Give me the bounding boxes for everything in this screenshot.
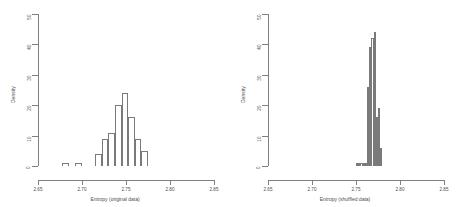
- histogram-bar: [115, 105, 122, 166]
- histogram-figure: 01020304050 2.652.702.752.802.85 Density…: [0, 0, 460, 207]
- y-tick: [262, 44, 268, 45]
- x-tick: [82, 180, 83, 185]
- y-tick: [32, 14, 38, 15]
- histogram-bar: [128, 117, 135, 166]
- histogram-bar: [102, 139, 109, 166]
- histogram-bars-shuffled: [268, 14, 444, 166]
- x-tick: [38, 180, 39, 185]
- x-tick-label: 2.85: [210, 187, 219, 193]
- histogram-bar: [75, 163, 82, 166]
- panel-original-data: 01020304050 2.652.702.752.802.85 Density…: [0, 0, 230, 207]
- y-tick: [32, 136, 38, 137]
- y-tick-label: 10: [257, 136, 262, 141]
- x-tick: [126, 180, 127, 185]
- histogram-bar: [141, 151, 148, 166]
- y-tick-label: 0: [27, 167, 32, 170]
- x-tick-label: 2.85: [440, 187, 449, 193]
- y-axis-label: Density: [10, 86, 16, 103]
- y-tick-label: 40: [27, 45, 32, 50]
- y-tick-label: 30: [257, 75, 262, 80]
- x-tick-label: 2.80: [166, 187, 175, 193]
- y-tick: [262, 136, 268, 137]
- x-tick: [214, 180, 215, 185]
- y-tick: [32, 105, 38, 106]
- y-tick-label: 30: [27, 75, 32, 80]
- y-tick-label: 40: [257, 45, 262, 50]
- y-tick: [32, 44, 38, 45]
- x-tick-label: 2.75: [122, 187, 131, 193]
- histogram-bars-original: [38, 14, 214, 166]
- y-tick-label: 10: [27, 136, 32, 141]
- y-tick: [32, 75, 38, 76]
- y-tick: [262, 75, 268, 76]
- histogram-bar: [108, 133, 115, 166]
- y-axis-label: Density: [240, 86, 246, 103]
- histogram-bar: [135, 139, 142, 166]
- y-tick: [262, 105, 268, 106]
- panel-shuffled-data: 01020304050 2.652.702.752.802.85 Density…: [230, 0, 460, 207]
- x-axis-label: Entropy (shuffled data): [230, 196, 460, 202]
- x-tick: [312, 180, 313, 185]
- x-tick-label: 2.80: [396, 187, 405, 193]
- histogram-bar: [62, 163, 69, 166]
- x-tick-label: 2.65: [264, 187, 273, 193]
- x-tick-label: 2.70: [308, 187, 317, 193]
- histogram-bar: [122, 93, 129, 166]
- y-tick: [262, 166, 268, 167]
- y-tick-label: 0: [257, 167, 262, 170]
- x-tick: [400, 180, 401, 185]
- y-tick-label: 50: [27, 15, 32, 20]
- histogram-bar: [95, 154, 102, 166]
- x-tick-label: 2.75: [352, 187, 361, 193]
- x-tick: [356, 180, 357, 185]
- y-tick-label: 20: [27, 106, 32, 111]
- y-tick-label: 20: [257, 106, 262, 111]
- y-tick-label: 50: [257, 15, 262, 20]
- x-tick: [268, 180, 269, 185]
- x-tick-label: 2.65: [34, 187, 43, 193]
- histogram-bar: [380, 148, 382, 166]
- x-tick: [444, 180, 445, 185]
- x-tick-label: 2.70: [78, 187, 87, 193]
- x-tick: [170, 180, 171, 185]
- y-tick: [32, 166, 38, 167]
- x-axis-label: Entropy (original data): [0, 196, 230, 202]
- y-tick: [262, 14, 268, 15]
